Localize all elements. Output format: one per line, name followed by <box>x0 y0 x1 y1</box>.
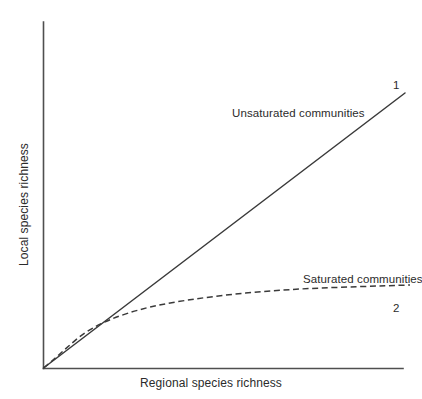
plot-area <box>0 0 422 399</box>
curve-marker-one: 1 <box>393 79 400 92</box>
figure-container: Unsaturated communities Saturated commun… <box>0 0 422 399</box>
x-axis-label: Regional species richness <box>0 377 422 390</box>
curve-marker-two: 2 <box>393 302 400 315</box>
y-axis-label: Local species richness <box>18 66 31 266</box>
series-line-unsaturated <box>44 93 406 368</box>
annotation-saturated-communities: Saturated communities <box>303 273 422 286</box>
annotation-unsaturated-communities: Unsaturated communities <box>232 107 365 120</box>
